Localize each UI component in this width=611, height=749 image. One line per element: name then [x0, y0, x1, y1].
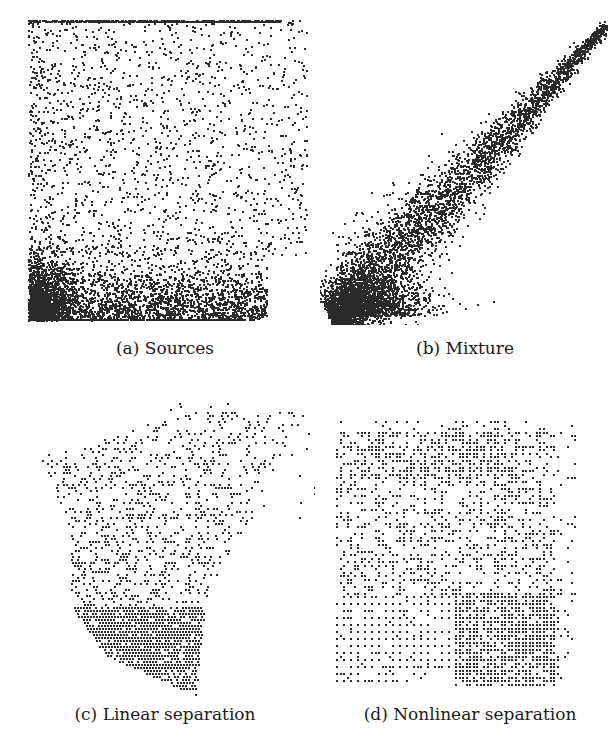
scatter-plot-mixture [320, 15, 610, 325]
scatter-plot-sources [20, 15, 315, 325]
panel-c-linear-separation [15, 400, 315, 700]
panel-d-nonlinear-separation [315, 400, 611, 700]
scatter-plot-linear-separation [15, 400, 315, 700]
caption-b: (b) Mixture [360, 338, 570, 358]
panel-a-sources [20, 15, 315, 325]
caption-c: (c) Linear separation [40, 704, 290, 724]
panel-b-mixture [320, 15, 610, 325]
scatter-plot-nonlinear-separation [315, 400, 611, 700]
caption-a: (a) Sources [60, 338, 270, 358]
caption-d: (d) Nonlinear separation [340, 704, 600, 724]
